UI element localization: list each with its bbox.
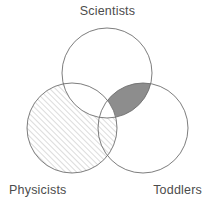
venn-diagram-figure: Scientists Physicists Toddlers [0,0,215,203]
venn-label-physicists: Physicists [9,183,67,197]
venn-diagram-svg [0,0,215,203]
venn-label-scientists: Scientists [0,4,215,18]
venn-label-toddlers: Toddlers [153,183,202,197]
